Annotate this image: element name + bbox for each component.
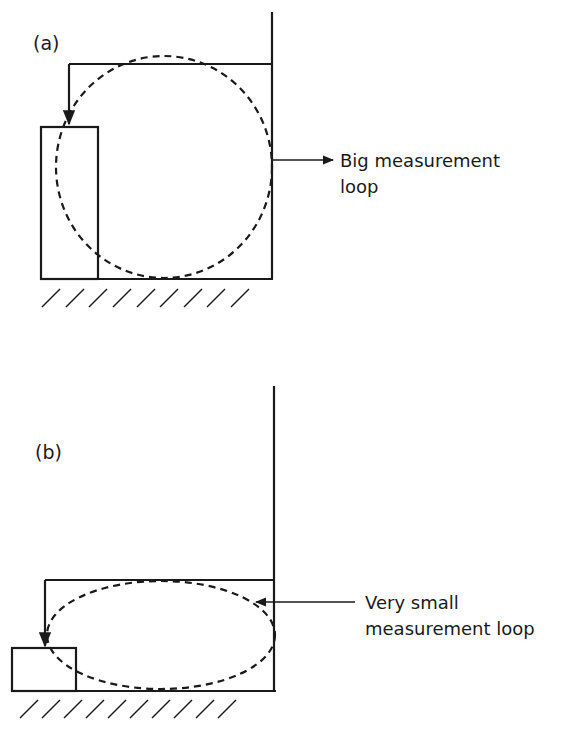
annotation-a-line2: loop: [340, 176, 378, 197]
workpiece-a: [41, 127, 98, 279]
annotation-b-line1: Very small: [365, 592, 459, 613]
annotation-b-line2: measurement loop: [365, 618, 535, 639]
diagram-canvas: (a) Big measurement loop (b): [0, 0, 576, 737]
measurement-loop-b: [47, 581, 275, 689]
workpiece-b: [12, 648, 76, 691]
ground-hatching-b: [20, 700, 236, 718]
annotation-a-line1: Big measurement: [340, 150, 500, 171]
panel-a: (a) Big measurement loop: [33, 12, 500, 307]
measurement-loop-a: [56, 56, 272, 278]
panel-b-label: (b): [35, 441, 62, 463]
panel-a-label: (a): [33, 32, 59, 54]
measurement-loop-figure: (a) Big measurement loop (b): [0, 0, 576, 737]
ground-hatching-a: [42, 289, 249, 307]
panel-b: (b) Very small measurement loop: [12, 386, 535, 718]
